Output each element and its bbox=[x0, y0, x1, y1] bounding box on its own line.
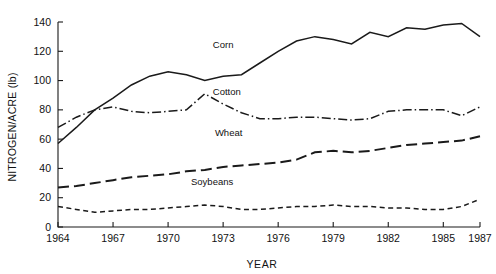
y-tick-label: 60 bbox=[39, 133, 51, 145]
y-tick-label: 20 bbox=[39, 191, 51, 203]
x-tick-label: 1979 bbox=[322, 232, 346, 244]
y-axis-tick-labels: 020406080100120140 bbox=[33, 16, 51, 233]
x-axis-ticks bbox=[58, 222, 480, 227]
series-label-wheat: Wheat bbox=[215, 127, 243, 138]
x-tick-label: 1973 bbox=[211, 232, 235, 244]
y-tick-label: 140 bbox=[33, 16, 51, 28]
x-tick-label: 1985 bbox=[432, 232, 456, 244]
y-tick-label: 80 bbox=[39, 103, 51, 115]
nitrogen-per-acre-line-chart: 020406080100120140 196419671970197319761… bbox=[0, 0, 496, 274]
series-label-corn: Corn bbox=[213, 39, 234, 50]
series-inline-labels: CornCottonWheatSoybeans bbox=[191, 39, 243, 186]
x-tick-label: 1982 bbox=[377, 232, 401, 244]
series-line-cotton bbox=[58, 94, 480, 128]
x-tick-label: 1976 bbox=[266, 232, 290, 244]
axes bbox=[58, 22, 480, 227]
x-tick-label: 1967 bbox=[101, 232, 125, 244]
y-tick-label: 100 bbox=[33, 74, 51, 86]
x-tick-label: 1964 bbox=[46, 232, 70, 244]
series-lines bbox=[58, 23, 480, 212]
series-label-cotton: Cotton bbox=[213, 86, 241, 97]
x-tick-label: 1987 bbox=[468, 232, 492, 244]
chart-canvas: 020406080100120140 196419671970197319761… bbox=[0, 0, 496, 274]
series-line-corn bbox=[58, 23, 480, 143]
y-tick-label: 120 bbox=[33, 45, 51, 57]
x-axis-title: YEAR bbox=[247, 258, 278, 270]
axis-lines bbox=[58, 22, 480, 227]
x-tick-label: 1970 bbox=[156, 232, 180, 244]
y-tick-label: 40 bbox=[39, 162, 51, 174]
x-axis-tick-labels: 196419671970197319761979198219851987 bbox=[46, 232, 492, 244]
y-tick-label: 0 bbox=[45, 221, 51, 233]
series-line-soybeans bbox=[58, 199, 480, 212]
series-label-soybeans: Soybeans bbox=[191, 176, 234, 187]
y-axis-title: NITROGEN/ACRE (lb) bbox=[6, 72, 18, 181]
series-line-wheat bbox=[58, 136, 480, 187]
